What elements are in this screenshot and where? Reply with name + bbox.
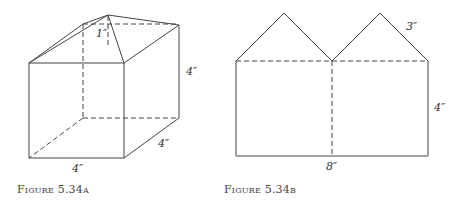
front-face [29,63,124,158]
figure-a-caption: Figure 5.34a [17,183,89,196]
figure-b-length-label: 8″ [326,160,337,173]
figure-b-height-label: 4″ [434,101,445,114]
figure-a-width-label: 4″ [72,162,83,175]
figure-b-drawing [236,13,428,156]
figure-a-roof-height-label: 1″ [96,27,107,40]
figure-a-height-label: 4″ [186,65,197,78]
figure-b-slant-label: 3″ [406,20,417,33]
figure-b-caption: Figure 5.34b [224,183,296,196]
figure-a-depth-label: 4″ [158,137,169,150]
